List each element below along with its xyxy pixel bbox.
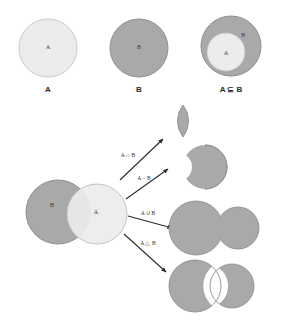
result-union [169,201,259,255]
source-venn-pair: B A [26,180,127,244]
panel-caption-a-subset-b: A ⊆ B [220,85,243,94]
top-panel-a-subset-b: A B A ⊆ B [201,16,261,94]
union-seam-b [218,208,258,248]
subset-inner-label-a: A [224,49,229,56]
op-label-union: A ∪ B [141,210,156,216]
subset-inner-label-b: B [241,31,245,38]
symdiff-shape [155,250,280,322]
op-label-intersection: A ∩ B [121,152,136,158]
diagram-canvas: A A B B A B A ⊆ B B A A ∩ B A − B A ∪ B … [0,0,282,322]
crescent-shape [170,135,250,200]
arrow-union [128,216,172,228]
circle-b-inner-label: B [137,43,141,50]
result-intersection [177,105,188,137]
circle-a-inner-label: A [46,43,51,50]
source-label-a: A [94,208,99,215]
set-operations-figure: A A B B A B A ⊆ B B A A ∩ B A − B A ∪ B … [0,0,282,322]
result-difference [170,135,250,200]
op-label-symmetric-difference: A △ B [140,240,156,246]
lens-shape [177,105,188,137]
panel-caption-b: B [136,85,142,94]
panel-caption-a: A [45,85,51,94]
arrow-intersection [120,139,163,180]
source-label-b: B [50,201,54,208]
top-panel-a: A A [19,19,77,94]
top-panel-b: B B [110,19,168,94]
arrow-difference [126,169,168,199]
union-seam-a [170,202,222,254]
result-symmetric-difference [155,250,280,322]
op-label-difference: A − B [137,175,151,181]
